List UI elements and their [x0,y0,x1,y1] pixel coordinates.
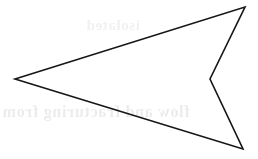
arrow-polygon-outline [15,7,245,149]
arrow-polygon-svg [0,0,258,159]
figure-canvas: isolated flow and fracturing from [0,0,258,159]
